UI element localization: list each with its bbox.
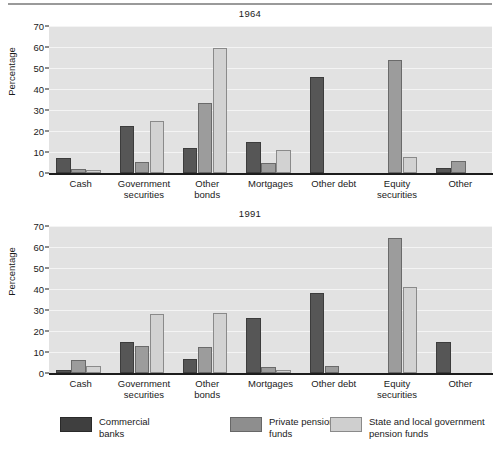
- y-axis-tick-label: 70: [33, 221, 44, 232]
- bar: [56, 158, 71, 173]
- gridline: [49, 352, 492, 353]
- y-axis-tick-label: 0: [39, 368, 44, 379]
- y-axis-tick-mark: [45, 352, 49, 353]
- gridline: [49, 289, 492, 290]
- x-axis-tick-label: Other: [448, 378, 472, 389]
- y-axis-tick-mark: [45, 289, 49, 290]
- chart-title-1991: 1991: [0, 208, 500, 219]
- chart-title-1964: 1964: [0, 8, 500, 19]
- legend-label: Private pension funds: [269, 416, 334, 439]
- bar: [183, 359, 198, 373]
- x-axis-tick-label: Mortgages: [248, 378, 293, 389]
- y-axis-tick-label: 10: [33, 347, 44, 358]
- gridline: [49, 110, 492, 111]
- y-axis-tick-label: 10: [33, 147, 44, 158]
- y-axis-tick-mark: [45, 47, 49, 48]
- y-axis-tick-mark: [45, 110, 49, 111]
- bar: [183, 148, 198, 173]
- y-axis-tick-mark: [45, 89, 49, 90]
- x-axis-line-1991: [49, 373, 493, 375]
- y-axis-tick-label: 30: [33, 105, 44, 116]
- x-axis-tick-label: Other: [448, 178, 472, 189]
- y-axis-tick-mark: [45, 131, 49, 132]
- legend-item: Commercial banks: [60, 416, 150, 439]
- y-axis-tick-label: 40: [33, 84, 44, 95]
- bar: [310, 293, 325, 373]
- gridline: [49, 268, 492, 269]
- y-axis-tick-label: 60: [33, 42, 44, 53]
- x-axis-tick-label: Other debt: [311, 178, 356, 189]
- y-axis-tick-label: 0: [39, 168, 44, 179]
- bar: [261, 163, 276, 174]
- y-axis-tick-label: 70: [33, 21, 44, 32]
- y-axis-tick-mark: [45, 247, 49, 248]
- y-axis-tick-label: 60: [33, 242, 44, 253]
- y-axis-tick-mark: [45, 268, 49, 269]
- gridline: [49, 310, 492, 311]
- y-axis-tick-mark: [45, 226, 49, 227]
- bar: [325, 366, 340, 373]
- x-axis-tick-label: Mortgages: [248, 178, 293, 189]
- plot-area-1991: 010203040506070CashGovernment securities…: [49, 226, 492, 373]
- bar: [150, 314, 165, 373]
- plot-area-1964: 010203040506070CashGovernment securities…: [49, 26, 492, 173]
- y-axis-tick-label: 20: [33, 326, 44, 337]
- legend-label: Commercial banks: [99, 416, 150, 439]
- gridline: [49, 247, 492, 248]
- y-axis-tick-mark: [45, 152, 49, 153]
- bar: [403, 157, 418, 173]
- x-axis-tick-label: Cash: [70, 178, 92, 189]
- gridline: [49, 331, 492, 332]
- y-axis-tick-mark: [45, 68, 49, 69]
- x-axis-tick-label: Other debt: [311, 378, 356, 389]
- bar: [403, 287, 418, 373]
- bar: [276, 150, 291, 173]
- legend-item: Private pension funds: [230, 416, 334, 439]
- bar: [198, 347, 213, 373]
- bar: [388, 238, 403, 373]
- bar: [388, 60, 403, 173]
- figure: 1964 Percentage 010203040506070CashGover…: [0, 0, 500, 453]
- legend-item: State and local government pension funds: [330, 416, 485, 439]
- x-axis-tick-label: Other bonds: [194, 378, 220, 400]
- x-axis-tick-label: Equity securities: [377, 178, 417, 200]
- y-axis-tick-label: 40: [33, 284, 44, 295]
- x-axis-tick-label: Cash: [70, 378, 92, 389]
- gridline: [49, 131, 492, 132]
- top-rule: [8, 3, 492, 5]
- bar: [86, 366, 101, 373]
- legend-swatch: [330, 417, 362, 432]
- y-axis-label-1991: Percentage: [6, 217, 17, 327]
- bar: [213, 48, 228, 173]
- bar: [310, 77, 325, 173]
- gridline: [49, 68, 492, 69]
- y-axis-tick-mark: [45, 26, 49, 27]
- bar: [135, 162, 150, 173]
- legend-swatch: [60, 417, 92, 432]
- x-axis-tick-label: Equity securities: [377, 378, 417, 400]
- gridline: [49, 226, 492, 227]
- gridline: [49, 89, 492, 90]
- y-axis-label-1964: Percentage: [6, 17, 17, 127]
- x-axis-line-1964: [49, 173, 493, 175]
- legend-label: State and local government pension funds: [369, 416, 485, 439]
- legend-swatch: [230, 417, 262, 432]
- bar: [120, 126, 135, 173]
- y-axis-tick-mark: [45, 310, 49, 311]
- y-axis-tick-mark: [45, 331, 49, 332]
- x-axis-tick-label: Other bonds: [194, 178, 220, 200]
- y-axis-tick-label: 50: [33, 263, 44, 274]
- y-axis-tick-label: 50: [33, 63, 44, 74]
- gridline: [49, 26, 492, 27]
- x-axis-tick-label: Government securities: [118, 178, 170, 200]
- bar: [246, 142, 261, 174]
- chart-legend: Commercial banksPrivate pension fundsSta…: [0, 404, 500, 448]
- bar: [71, 360, 86, 373]
- gridline: [49, 47, 492, 48]
- bar: [451, 161, 466, 173]
- bar: [436, 342, 451, 374]
- chart-panel-1991: 1991 Percentage 010203040506070CashGover…: [0, 208, 500, 398]
- bar: [150, 121, 165, 173]
- chart-panel-1964: 1964 Percentage 010203040506070CashGover…: [0, 8, 500, 204]
- x-axis-tick-label: Government securities: [118, 378, 170, 400]
